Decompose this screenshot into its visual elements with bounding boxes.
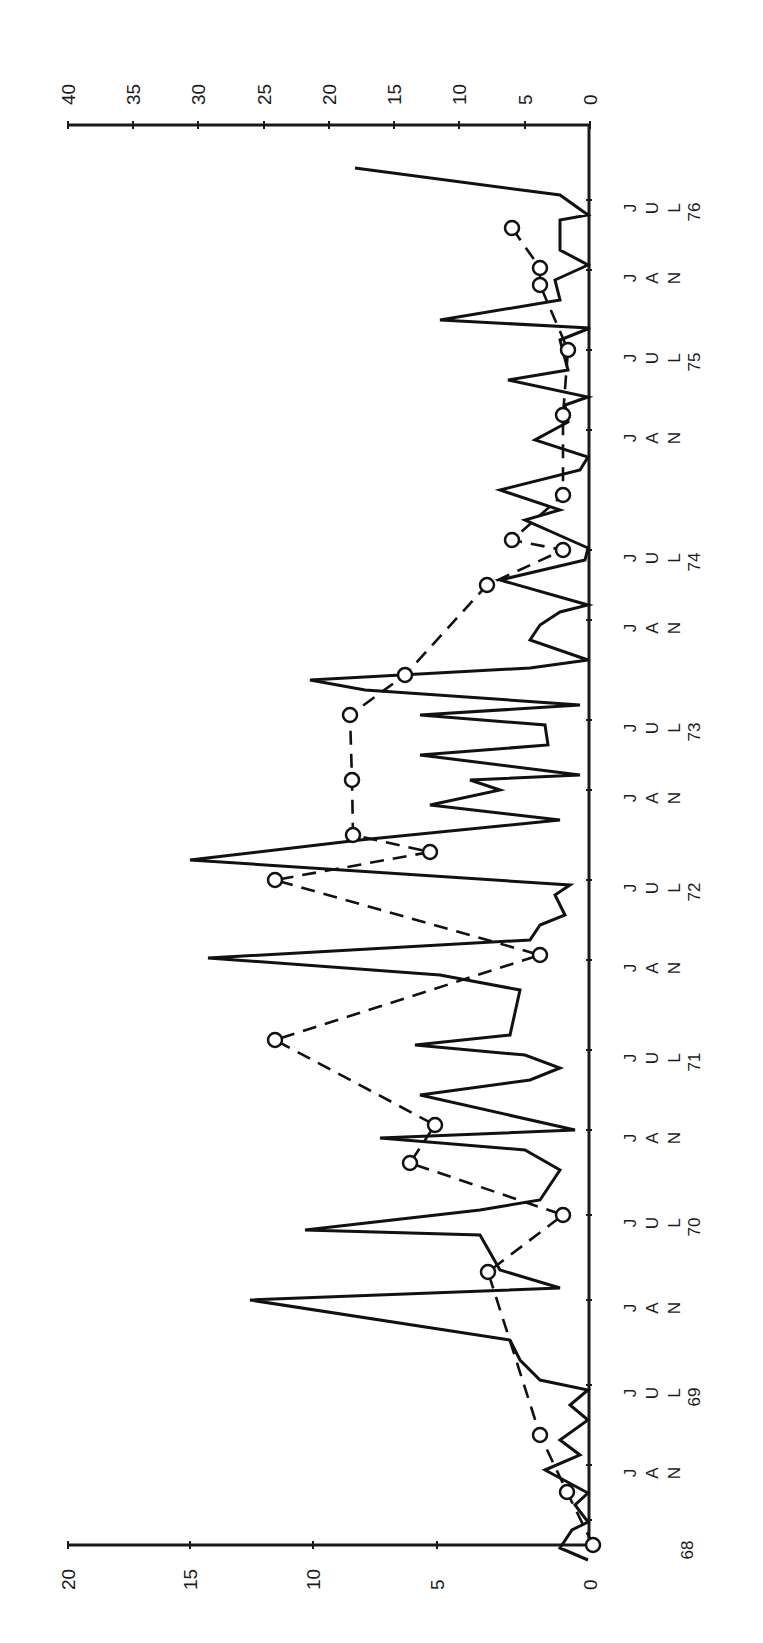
svg-text:L: L xyxy=(665,553,684,562)
right-axis-tick-label: 25 xyxy=(254,84,275,105)
svg-text:N: N xyxy=(665,272,684,284)
svg-text:J: J xyxy=(621,1219,640,1228)
svg-text:U: U xyxy=(643,882,662,894)
left-axis-tick-label: 10 xyxy=(303,1569,324,1590)
data-point-marker xyxy=(533,948,547,962)
data-point-marker xyxy=(268,873,282,887)
svg-text:J: J xyxy=(621,1389,640,1398)
svg-text:73: 73 xyxy=(685,723,704,742)
data-point-marker xyxy=(346,828,360,842)
data-point-marker xyxy=(403,1156,417,1170)
left-axis-tick-label: 0 xyxy=(580,1579,601,1590)
svg-text:N: N xyxy=(665,1467,684,1479)
svg-text:J: J xyxy=(621,554,640,563)
left-axis-tick-label: 20 xyxy=(58,1569,79,1590)
svg-text:N: N xyxy=(665,962,684,974)
data-point-marker xyxy=(533,278,547,292)
data-point-marker xyxy=(268,1033,282,1047)
time-axis-label: JAN xyxy=(621,1302,684,1314)
data-point-marker xyxy=(556,488,570,502)
time-axis-label: JUL73 xyxy=(621,722,704,742)
svg-text:U: U xyxy=(643,1052,662,1064)
time-axis-label: JUL71 xyxy=(621,1052,704,1072)
svg-text:76: 76 xyxy=(685,203,704,222)
right-axis-tick-label: 15 xyxy=(384,84,405,105)
svg-text:70: 70 xyxy=(685,1218,704,1237)
time-axis-label: JUL74 xyxy=(621,552,704,572)
svg-text:J: J xyxy=(621,1134,640,1143)
time-axis-label: JAN xyxy=(621,272,684,284)
svg-text:A: A xyxy=(643,432,662,444)
circle-markers xyxy=(268,221,600,1552)
svg-text:75: 75 xyxy=(685,353,704,372)
data-point-marker xyxy=(428,1118,442,1132)
data-point-marker xyxy=(343,708,357,722)
right-axis-tick-label: 0 xyxy=(580,94,601,105)
svg-text:U: U xyxy=(643,722,662,734)
svg-text:N: N xyxy=(665,1302,684,1314)
time-axis-label: JUL70 xyxy=(621,1217,704,1237)
right-axis-tick-label: 20 xyxy=(319,84,340,105)
svg-text:N: N xyxy=(665,432,684,444)
svg-text:N: N xyxy=(665,1132,684,1144)
time-axis-label: JUL75 xyxy=(621,352,704,372)
svg-text:72: 72 xyxy=(685,883,704,902)
svg-text:A: A xyxy=(643,1302,662,1314)
left-axis-tick-label: 5 xyxy=(427,1579,448,1590)
svg-text:J: J xyxy=(621,1304,640,1313)
right-axis-ticks: 4035302520151050 xyxy=(58,84,601,129)
svg-text:A: A xyxy=(643,272,662,284)
svg-text:A: A xyxy=(643,962,662,974)
svg-text:L: L xyxy=(665,203,684,212)
svg-text:A: A xyxy=(643,622,662,634)
data-point-marker xyxy=(480,578,494,592)
solid-data-series xyxy=(190,168,590,1560)
data-point-marker xyxy=(398,668,412,682)
svg-text:J: J xyxy=(621,964,640,973)
time-axis-label: 68 xyxy=(678,1541,697,1560)
svg-text:J: J xyxy=(621,1054,640,1063)
time-axis-label: JUL69 xyxy=(621,1387,704,1407)
data-point-marker xyxy=(505,221,519,235)
right-axis-tick-label: 5 xyxy=(515,94,536,105)
data-point-marker xyxy=(561,343,575,357)
right-axis-tick-label: 10 xyxy=(449,84,470,105)
svg-text:J: J xyxy=(621,794,640,803)
svg-text:U: U xyxy=(643,1387,662,1399)
time-axis-label: JAN xyxy=(621,1467,684,1479)
svg-text:N: N xyxy=(665,622,684,634)
svg-text:U: U xyxy=(643,1217,662,1229)
time-axis-label: JAN xyxy=(621,962,684,974)
svg-text:J: J xyxy=(621,434,640,443)
svg-text:L: L xyxy=(665,353,684,362)
time-axis-label: JUL76 xyxy=(621,202,704,222)
svg-text:L: L xyxy=(665,883,684,892)
svg-text:A: A xyxy=(643,792,662,804)
time-axis-label: JAN xyxy=(621,622,684,634)
svg-text:J: J xyxy=(621,724,640,733)
svg-text:L: L xyxy=(665,1218,684,1227)
svg-text:J: J xyxy=(621,204,640,213)
svg-text:J: J xyxy=(621,884,640,893)
svg-text:A: A xyxy=(643,1132,662,1144)
svg-text:71: 71 xyxy=(685,1053,704,1072)
dashed-data-series xyxy=(275,228,593,1545)
time-axis-label: JAN xyxy=(621,792,684,804)
time-axis-label: JAN xyxy=(621,1132,684,1144)
data-point-marker xyxy=(481,1265,495,1279)
rotated-line-chart: 4035302520151050 20151050 68JANJUL69JANJ… xyxy=(0,0,763,1643)
svg-text:J: J xyxy=(621,1469,640,1478)
svg-text:69: 69 xyxy=(685,1388,704,1407)
right-axis-tick-label: 30 xyxy=(188,84,209,105)
data-point-marker xyxy=(560,1485,574,1499)
time-axis-ticks: 68JANJUL69JANJUL70JANJUL71JANJUL72JANJUL… xyxy=(586,200,704,1559)
left-axis-tick-label: 15 xyxy=(180,1569,201,1590)
right-axis-tick-label: 35 xyxy=(123,84,144,105)
svg-text:J: J xyxy=(621,274,640,283)
data-point-marker xyxy=(345,773,359,787)
data-point-marker xyxy=(556,1208,570,1222)
svg-text:74: 74 xyxy=(685,553,704,572)
svg-text:J: J xyxy=(621,624,640,633)
svg-text:A: A xyxy=(643,1467,662,1479)
data-point-marker xyxy=(505,533,519,547)
